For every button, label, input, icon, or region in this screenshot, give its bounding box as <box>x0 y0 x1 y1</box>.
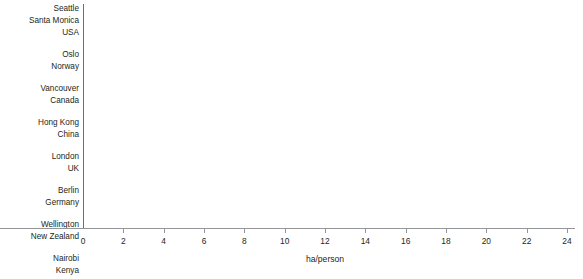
bar-uk <box>83 166 194 174</box>
bar-canada <box>83 98 234 106</box>
y-label-kenya: Kenya <box>0 267 79 275</box>
x-tick-label-16: 16 <box>394 236 418 246</box>
y-label-london: London <box>0 153 79 161</box>
bar-santa-monica <box>83 18 504 26</box>
x-tick-label-20: 20 <box>474 236 498 246</box>
x-tick-4 <box>164 228 165 233</box>
x-tick-label-18: 18 <box>434 236 458 246</box>
x-tick-12 <box>325 228 326 233</box>
bar-seattle <box>83 6 531 14</box>
x-tick-14 <box>365 228 366 233</box>
bar-norway <box>83 64 198 72</box>
bar-oslo <box>83 52 236 60</box>
bar-vancouver <box>83 86 236 94</box>
y-label-uk: UK <box>0 165 79 173</box>
bar-berlin <box>83 188 164 196</box>
x-tick-label-12: 12 <box>313 236 337 246</box>
y-label-vancouver: Vancouver <box>0 85 79 93</box>
x-tick-label-24: 24 <box>555 236 579 246</box>
x-tick-18 <box>446 228 447 233</box>
x-tick-24 <box>567 228 568 233</box>
y-label-oslo: Oslo <box>0 51 79 59</box>
x-tick-8 <box>244 228 245 233</box>
y-label-hong-kong: Hong Kong <box>0 119 79 127</box>
x-tick-label-10: 10 <box>273 236 297 246</box>
bar-london <box>83 154 214 162</box>
bar-nairobi <box>83 256 101 264</box>
x-tick-22 <box>527 228 528 233</box>
bar-hong-kong <box>83 120 224 128</box>
bar-kenya <box>83 268 99 276</box>
bar-usa <box>83 30 275 38</box>
y-axis-category-labels: SeattleSanta MonicaUSAOsloNorwayVancouve… <box>0 0 79 228</box>
bar-china <box>83 132 115 140</box>
bar-germany <box>83 200 172 208</box>
x-tick-label-8: 8 <box>232 236 256 246</box>
y-label-seattle: Seattle <box>0 5 79 13</box>
y-label-usa: USA <box>0 29 79 37</box>
y-label-germany: Germany <box>0 199 79 207</box>
y-label-canada: Canada <box>0 97 79 105</box>
x-tick-16 <box>406 228 407 233</box>
bar-wellington <box>83 222 131 230</box>
y-label-santa-monica: Santa Monica <box>0 17 79 25</box>
horizontal-bar-chart: SeattleSanta MonicaUSAOsloNorwayVancouve… <box>0 0 583 279</box>
y-label-china: China <box>0 131 79 139</box>
y-label-nairobi: Nairobi <box>0 255 79 263</box>
x-tick-20 <box>486 228 487 233</box>
y-label-berlin: Berlin <box>0 187 79 195</box>
x-axis-title: ha/person <box>285 254 365 264</box>
y-label-new-zealand: New Zealand <box>0 233 79 241</box>
bar-new-zealand <box>83 234 202 242</box>
x-tick-label-22: 22 <box>515 236 539 246</box>
x-tick-6 <box>204 228 205 233</box>
y-label-norway: Norway <box>0 63 79 71</box>
x-tick-label-14: 14 <box>353 236 377 246</box>
x-tick-10 <box>285 228 286 233</box>
